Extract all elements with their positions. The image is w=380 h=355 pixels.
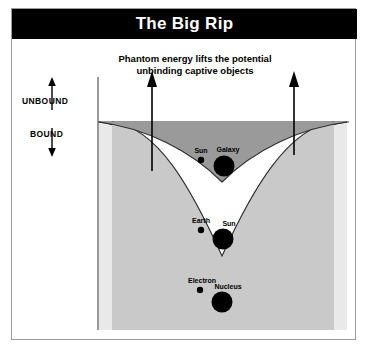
atomic-large-object-label: Nucleus — [214, 283, 241, 290]
atomic-small-object-dot — [197, 287, 203, 293]
down-arrow-icon — [48, 128, 56, 157]
galactic-large-object-label: Galaxy — [217, 146, 240, 154]
galactic-large-object-dot — [214, 156, 235, 177]
big-rip-figure: The Big Rip Phantom energy lifts the pot… — [0, 0, 380, 355]
atomic-small-object-label: Electron — [188, 277, 216, 284]
up-arrow-icon — [48, 77, 56, 110]
potential-well-plot: Sun Galaxy Earth Sun Electron Nucleus — [0, 0, 380, 355]
atomic-large-object-dot — [212, 292, 233, 313]
solar-large-object-dot — [213, 229, 234, 250]
galactic-small-object-label: Sun — [194, 147, 207, 154]
solar-small-object-label: Earth — [192, 217, 210, 224]
solar-large-object-label: Sun — [222, 220, 235, 227]
galactic-small-object-dot — [198, 157, 204, 163]
solar-small-object-dot — [198, 227, 204, 233]
